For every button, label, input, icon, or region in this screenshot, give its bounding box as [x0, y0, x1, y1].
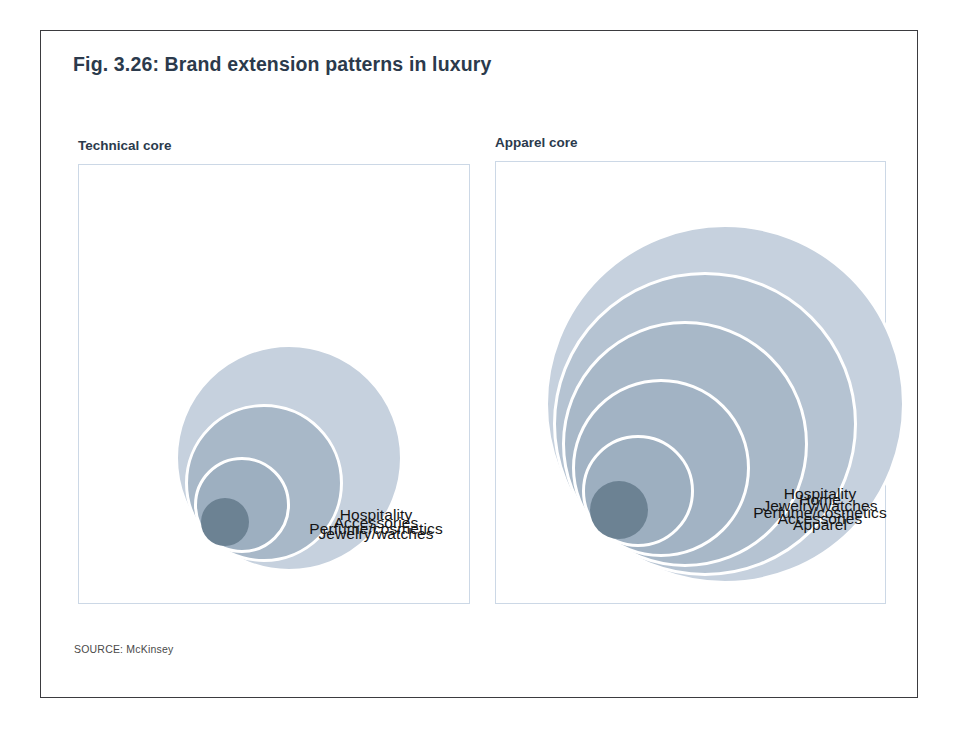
bubble-label-jewelry-watches: Jewelry/watches [318, 525, 433, 543]
venn-apparel-core: HospitalityHomeJewelry/watchesPerfume/co… [495, 161, 886, 604]
venn-technical-core: HospitalityAccessoriesPerfume/cosmeticsJ… [78, 164, 470, 604]
page-title: Fig. 3.26: Brand extension patterns in l… [73, 53, 492, 76]
figure-frame: Fig. 3.26: Brand extension patterns in l… [40, 30, 918, 698]
source-note: SOURCE: McKinsey [74, 643, 173, 655]
panel-technical-core: Technical core HospitalityAccessoriesPer… [78, 164, 470, 604]
panel-apparel-core: Apparel core HospitalityHomeJewelry/watc… [495, 161, 886, 604]
bubble-apparel[interactable] [590, 481, 648, 539]
panel-apparel-core-label: Apparel core [495, 135, 578, 150]
panel-technical-core-label: Technical core [78, 138, 172, 153]
bubble-label-apparel: Apparel [793, 516, 847, 534]
bubble-jewelry-watches[interactable] [201, 498, 249, 546]
